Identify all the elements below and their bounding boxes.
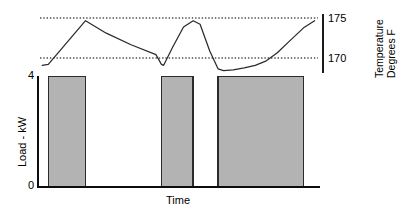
load-panel	[38, 76, 318, 187]
load-bars	[48, 76, 303, 187]
temperature-axis-title-line2: Degrees F	[386, 0, 398, 78]
temperature-tick-170: 170	[328, 53, 346, 64]
load-x-axis	[37, 186, 320, 188]
temperature-axis-title-line1: Temperature	[374, 0, 386, 78]
temperature-panel	[38, 10, 318, 76]
load-plot	[38, 76, 318, 187]
load-tick-0: 0	[28, 180, 34, 191]
load-tick-4: 4	[28, 70, 34, 81]
temperature-axis-title: Temperature Degrees F	[374, 0, 402, 78]
load-bar	[161, 76, 193, 187]
load-y-axis	[37, 76, 39, 187]
temperature-line	[42, 21, 314, 71]
load-bar	[218, 76, 304, 187]
load-axis-title: Load - kW	[16, 117, 28, 167]
x-axis-title: Time	[0, 194, 356, 206]
temperature-tick-175: 175	[328, 13, 346, 24]
temperature-plot	[38, 10, 318, 76]
load-bar	[48, 76, 85, 187]
temperature-axis-spine	[322, 14, 324, 73]
